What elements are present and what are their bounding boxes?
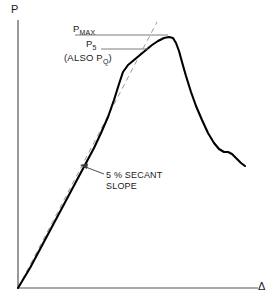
secant-slope-annotation: 5 % SECANT SLOPE	[106, 170, 163, 192]
secant-annotation-line1: 5 % SECANT	[106, 170, 163, 180]
p5-subscript: 5	[93, 44, 97, 51]
pmax-label: PMAX	[73, 23, 95, 36]
curve-group	[18, 37, 245, 288]
pq-prefix: (ALSO P	[64, 52, 103, 63]
p5-label: P5	[86, 38, 97, 51]
pq-label: (ALSO PQ)	[64, 52, 112, 65]
secant-annotation-line2: SLOPE	[106, 181, 163, 192]
pq-suffix: )	[109, 52, 112, 63]
load-displacement-curve	[18, 37, 245, 288]
y-axis-label: P	[11, 3, 19, 15]
axes-group	[18, 20, 258, 288]
pmax-subscript: MAX	[80, 29, 96, 36]
plot-canvas	[0, 0, 274, 302]
fracture-toughness-figure: P Δ PMAX P5 (ALSO PQ) 5 % SECANT SLOPE	[0, 0, 274, 302]
x-axis-label: Δ	[258, 280, 266, 292]
